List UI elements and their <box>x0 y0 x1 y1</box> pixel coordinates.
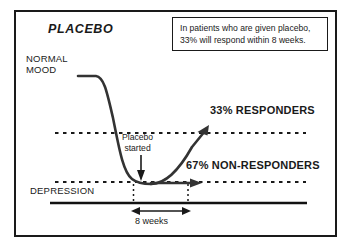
responders-curve <box>151 131 205 184</box>
diagram-canvas: PLACEBO NORMAL MOOD In patients who are … <box>0 0 355 249</box>
placebo-started-arrowhead <box>137 170 145 181</box>
normal-mood-label: NORMAL MOOD <box>26 54 68 76</box>
depression-label: DEPRESSION <box>30 186 94 197</box>
placebo-started-label: Placebo started <box>122 132 153 154</box>
duration-label: 8 weeks <box>135 216 168 226</box>
callout-box: In patients who are given placebo, 33% w… <box>172 17 328 51</box>
responders-label: 33% RESPONDERS <box>210 104 315 117</box>
duration-arrowhead-right <box>182 207 191 215</box>
diagram-title: PLACEBO <box>48 22 113 36</box>
non-responders-label: 67% NON-RESPONDERS <box>186 159 320 172</box>
non-responders-arrowhead <box>190 179 202 188</box>
duration-arrowhead-left <box>131 207 140 215</box>
mood-decline-curve <box>78 76 151 184</box>
